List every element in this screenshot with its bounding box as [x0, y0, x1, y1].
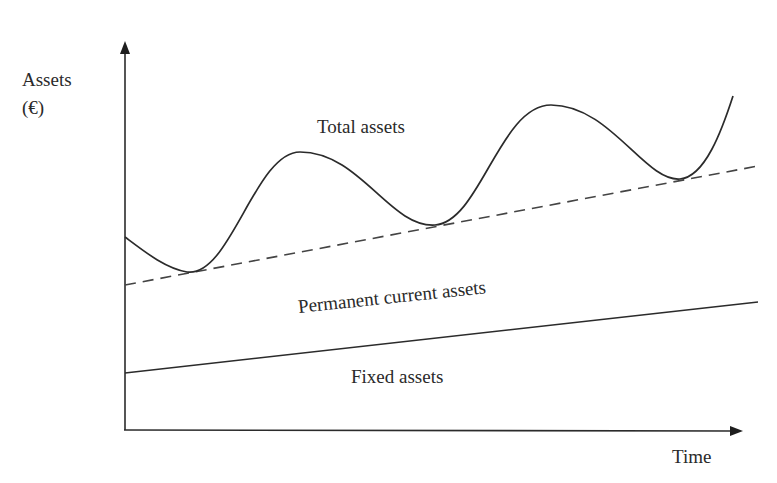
fixed-assets-label: Fixed assets	[351, 366, 443, 388]
total-assets-curve	[125, 96, 733, 272]
permanent-current-assets-line	[125, 166, 758, 285]
fixed-assets-line	[125, 302, 758, 373]
y-axis-label-line2: (€)	[22, 97, 44, 119]
x-axis-arrow-icon	[730, 426, 743, 436]
y-axis-label-line1: Assets	[22, 69, 72, 91]
x-axis	[124, 430, 733, 431]
diagram-canvas	[0, 0, 777, 483]
x-axis-label: Time	[672, 446, 711, 468]
total-assets-label: Total assets	[317, 116, 405, 138]
y-axis-arrow-icon	[120, 41, 130, 54]
